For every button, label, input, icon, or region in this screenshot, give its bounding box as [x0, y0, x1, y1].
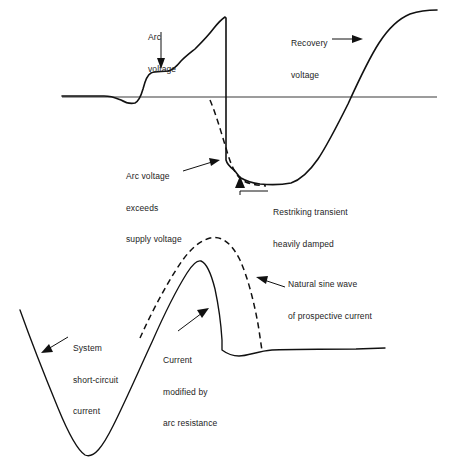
label-arc-exceeds-line2: exceeds — [126, 203, 182, 214]
current-modified-arrowhead — [197, 308, 209, 318]
figure-arc-voltage-current-waveforms: Arc voltage Recovery voltage Arc voltage… — [0, 0, 453, 474]
system-short-circuit-leader — [41, 337, 68, 353]
waveform-illustration — [0, 0, 453, 474]
label-arc-voltage: Arc voltage — [148, 11, 176, 95]
label-current-mod-line2: modified by — [163, 387, 217, 398]
label-current-modified-by-arc-resistance: Current modified by arc resistance — [163, 334, 217, 450]
label-arc-exceeds-line3: supply voltage — [126, 234, 182, 245]
label-recovery-voltage-line2: voltage — [291, 70, 328, 81]
system-short-circuit-arrowhead — [41, 344, 53, 353]
label-natural-sine-wave: Natural sine wave of prospective current — [288, 258, 372, 342]
label-recovery-voltage-line1: Recovery — [291, 38, 328, 49]
restriking-transient-leader — [235, 176, 268, 195]
label-arc-voltage-line1: Arc — [148, 32, 176, 43]
natural-sine-wave-arrowhead — [256, 276, 268, 284]
label-arc-exceeds-line1: Arc voltage — [126, 171, 182, 182]
recovery-voltage-leader — [332, 35, 363, 43]
prospective-supply-voltage-dashed-curve — [210, 100, 266, 186]
arc-exceeds-supply-leader — [183, 158, 220, 171]
label-natural-sine-line2: of prospective current — [288, 311, 372, 322]
label-restriking-line2: heavily damped — [273, 239, 348, 250]
restriking-transient-arrowhead — [235, 176, 245, 188]
label-arc-voltage-exceeds-supply: Arc voltage exceeds supply voltage — [126, 150, 182, 266]
arc-exceeds-supply-arrowhead — [209, 158, 220, 166]
label-system-sc-line2: short-circuit — [73, 375, 118, 386]
label-natural-sine-line1: Natural sine wave — [288, 279, 372, 290]
label-system-sc-line1: System — [73, 343, 118, 354]
current-modified-leader — [178, 308, 209, 331]
label-current-mod-line3: arc resistance — [163, 418, 217, 429]
label-arc-voltage-line2: voltage — [148, 64, 176, 75]
natural-sine-wave-leader — [256, 276, 285, 287]
label-current-mod-line1: Current — [163, 355, 217, 366]
label-recovery-voltage: Recovery voltage — [291, 17, 328, 101]
voltage-panel — [62, 10, 437, 195]
label-system-sc-line3: current — [73, 406, 118, 417]
label-system-short-circuit-current: System short-circuit current — [73, 322, 118, 438]
label-restriking-line1: Restriking transient — [273, 207, 348, 218]
recovery-voltage-arrowhead — [352, 35, 363, 43]
